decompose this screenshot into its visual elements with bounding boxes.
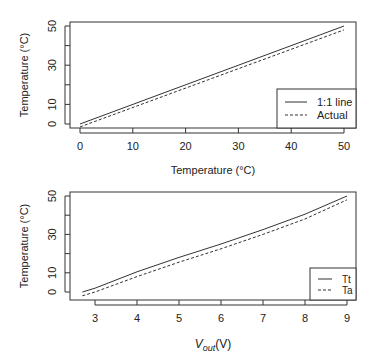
y-tick-label: 0 <box>46 121 58 127</box>
y-tick-label: 50 <box>46 20 58 32</box>
y-tick-label: 10 <box>46 98 58 110</box>
x-tick-label: 4 <box>134 312 140 324</box>
x-tick-label: 10 <box>127 140 139 152</box>
y-tick-label: 30 <box>46 228 58 240</box>
x-tick-label: 6 <box>218 312 224 324</box>
x-tick-label: 9 <box>344 312 350 324</box>
x-axis-label: Temperature (°C) <box>171 164 255 176</box>
y-axis-label: Temperature (°C) <box>18 204 30 288</box>
y-tick-label: 50 <box>46 190 58 202</box>
x-tick-label: 40 <box>285 140 297 152</box>
x-tick-label: 5 <box>176 312 182 324</box>
legend-label: 1:1 line <box>317 96 352 108</box>
top-chart: 010305001020304050Temperature (°C)Temper… <box>18 20 356 176</box>
y-tick-label: 10 <box>46 267 58 279</box>
legend-label: Ta <box>342 285 353 296</box>
y-axis-label: Temperature (°C) <box>18 33 30 117</box>
x-tick-label: 3 <box>92 312 98 324</box>
x-tick-label: 0 <box>77 140 83 152</box>
bottom-chart: 01030503456789Temperature (°C)Vout(V)TtT… <box>18 190 356 353</box>
series-solid-line <box>82 196 347 292</box>
legend-label: Tt <box>342 274 351 285</box>
x-tick-label: 8 <box>302 312 308 324</box>
x-axis-label: Vout(V) <box>195 337 232 353</box>
series-dashed-line <box>82 200 347 296</box>
x-tick-label: 30 <box>232 140 244 152</box>
x-tick-label: 50 <box>338 140 350 152</box>
legend-label: Actual <box>317 109 348 121</box>
y-tick-label: 30 <box>46 59 58 71</box>
x-tick-label: 7 <box>260 312 266 324</box>
chart-figure: 010305001020304050Temperature (°C)Temper… <box>0 0 375 363</box>
x-tick-label: 20 <box>179 140 191 152</box>
y-tick-label: 0 <box>46 289 58 295</box>
